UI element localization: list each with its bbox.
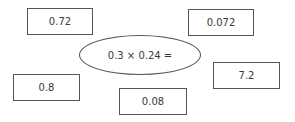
answer-option-0-08[interactable]: 0.08 bbox=[119, 88, 187, 115]
answer-option-label: 0.8 bbox=[39, 82, 55, 93]
answer-option-0-72[interactable]: 0.72 bbox=[27, 8, 93, 35]
question-expression: 0.3 × 0.24 = bbox=[108, 50, 172, 61]
answer-option-label: 0.072 bbox=[207, 17, 236, 28]
answer-option-label: 7.2 bbox=[239, 70, 255, 81]
question-ellipse: 0.3 × 0.24 = bbox=[79, 35, 201, 75]
answer-option-7-2[interactable]: 7.2 bbox=[213, 62, 280, 89]
answer-option-0-8[interactable]: 0.8 bbox=[13, 74, 80, 101]
answer-option-0-072[interactable]: 0.072 bbox=[188, 9, 254, 36]
answer-option-label: 0.08 bbox=[142, 96, 164, 107]
answer-option-label: 0.72 bbox=[49, 16, 71, 27]
